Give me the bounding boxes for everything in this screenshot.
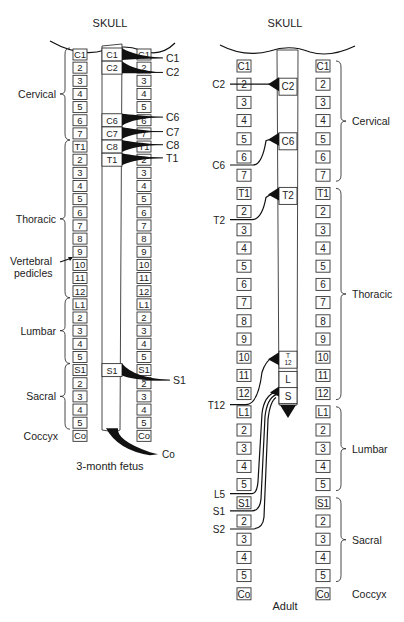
adult-skull-label: SKULL [268, 17, 303, 29]
vertebra-label: 4 [320, 115, 326, 126]
vertebra-box: 4 [73, 88, 87, 99]
vertebra-box: 3 [237, 96, 251, 108]
vertebra-label: 2 [77, 154, 82, 165]
svg-text:C6: C6 [106, 116, 118, 126]
vertebra-box: 8 [237, 315, 251, 327]
vertebra-label: 3 [141, 167, 146, 178]
vertebra-label: 10 [317, 352, 329, 363]
vertebra-box: 9 [316, 333, 330, 345]
vertebra-label: 8 [141, 233, 146, 244]
vertebra-label: 9 [77, 246, 82, 257]
vertebra-box: 2 [316, 424, 330, 436]
vertebra-label: 12 [238, 388, 250, 399]
vertebra-label: 5 [141, 417, 146, 428]
fetus-panel: SKULL C1234567T123456789101112L12345S123… [10, 17, 186, 472]
vertebra-box: 3 [73, 75, 87, 86]
vertebra-label: 3 [77, 391, 82, 402]
vertebra-box: 5 [137, 417, 151, 428]
vertebra-box: L1 [316, 406, 330, 418]
vertebra-box: 5 [73, 417, 87, 428]
region-label: Cervical [18, 88, 56, 100]
vertebra-label: 12 [317, 388, 329, 399]
vertebra-box: 11 [316, 369, 330, 381]
vertebra-label: 10 [238, 352, 250, 363]
vertebra-box: 3 [73, 167, 87, 178]
vertebra-label: 7 [241, 297, 247, 308]
vertebra-box: 2 [73, 378, 87, 389]
vertebra-label: S1 [74, 364, 86, 375]
vertebra-box: L1 [237, 406, 251, 418]
vertebra-box: 8 [73, 233, 87, 244]
vertebra-box: 5 [316, 570, 330, 582]
vertebra-box: 5 [237, 570, 251, 582]
vertebra-box: 10 [73, 259, 87, 270]
vertebra-box: 3 [137, 325, 151, 336]
vertebra-label: 11 [139, 272, 149, 283]
vertebra-label: 3 [320, 534, 326, 545]
vertebra-label: 2 [320, 425, 326, 436]
vertebra-label: 2 [141, 312, 146, 323]
vertebra-label: 5 [241, 261, 247, 272]
nerve-label: C6 [212, 160, 225, 171]
nerve-label: C6 [166, 111, 180, 123]
vertebra-label: 4 [77, 404, 82, 415]
vertebra-box: S1 [316, 497, 330, 509]
vertebra-label: 7 [77, 128, 82, 139]
vertebra-box: 4 [137, 404, 151, 415]
vertebra-box: 2 [316, 206, 330, 218]
vertebra-box: 7 [316, 169, 330, 181]
vertebra-label: 3 [141, 325, 146, 336]
region-label: Cervical [352, 115, 390, 127]
vertebra-box: 9 [137, 246, 151, 257]
vertebra-label: 6 [320, 152, 326, 163]
svg-text:L: L [285, 374, 291, 385]
vertebra-label: 3 [77, 167, 82, 178]
vertebra-label: 6 [320, 279, 326, 290]
vertebra-box: 5 [316, 260, 330, 272]
vertebra-label: 4 [77, 180, 82, 191]
region-label: Thoracic [352, 288, 392, 300]
nerve-label: T2 [213, 215, 225, 226]
region-brace [336, 498, 346, 582]
cord-segment: C8 [102, 140, 122, 153]
vertebra-box: 9 [237, 333, 251, 345]
vertebra-label: 6 [241, 152, 247, 163]
vertebra-label: 11 [239, 370, 250, 381]
vertebra-label: 5 [241, 479, 247, 490]
vertebra-label: 3 [241, 443, 247, 454]
nerve-label: T1 [166, 152, 178, 164]
vertebra-box: 5 [316, 479, 330, 491]
adult-vertebrae-left: C1234567T123456789101112L12345S12345Co [237, 60, 251, 600]
vertebra-label: 6 [77, 207, 82, 218]
vertebra-label: 2 [241, 206, 247, 217]
region-brace [60, 140, 70, 298]
fetus-skull-label: SKULL [93, 17, 128, 29]
svg-text:T2: T2 [282, 190, 294, 201]
vertebra-box: 3 [73, 391, 87, 402]
vertebra-label: 4 [241, 461, 247, 472]
vertebra-box: 4 [237, 115, 251, 127]
vertebra-label: 5 [320, 570, 326, 581]
cord-segment: C2 [279, 78, 297, 95]
region-label: Sacral [352, 534, 382, 546]
vertebra-label: 2 [77, 62, 82, 73]
vertebra-box: Co [316, 588, 330, 600]
conus-medullaris-icon [280, 405, 296, 418]
vertebra-box: L1 [137, 299, 151, 310]
vertebra-label: 5 [77, 351, 82, 362]
cord-segment: C6 [279, 133, 297, 150]
vertebra-label: C1 [238, 61, 251, 72]
vertebra-label: 2 [77, 312, 82, 323]
vertebra-box: C1 [316, 60, 330, 72]
vertebra-box: 4 [316, 115, 330, 127]
vertebra-box: 5 [73, 193, 87, 204]
vertebra-box: 6 [73, 207, 87, 218]
vertebra-label: 2 [320, 79, 326, 90]
vertebra-box: 3 [316, 442, 330, 454]
vertebra-box: 5 [137, 193, 151, 204]
vertebra-label: T1 [317, 188, 329, 199]
vertebra-box: S1 [137, 364, 151, 375]
vertebra-box: C1 [237, 60, 251, 72]
vertebra-box: Co [237, 588, 251, 600]
region-brace [60, 48, 70, 140]
